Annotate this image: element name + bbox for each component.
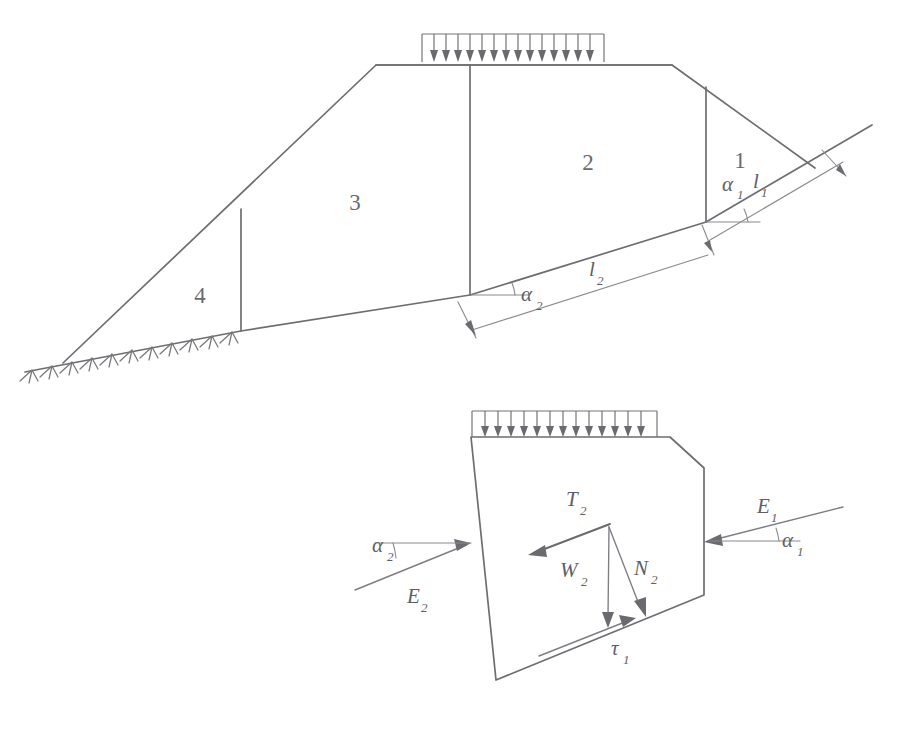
E1-subscript: 1 (771, 510, 778, 525)
alpha1-fbd-arc (776, 528, 779, 541)
label-alpha-1-upper: α 1 (722, 172, 744, 202)
fbd-body-outline (471, 437, 704, 680)
E1-symbol: E (756, 494, 770, 518)
load-tick-lines (434, 34, 590, 50)
l1-arrowhead-left (704, 240, 712, 252)
l2-symbol: l (589, 257, 595, 281)
upper-diagram-group: 1 2 3 4 α 1 l 1 α 2 l 2 (20, 34, 872, 383)
tau1-symbol: τ (611, 636, 620, 660)
label-alpha2-fbd: α 2 (372, 533, 394, 564)
l1-subscript: 1 (761, 185, 768, 200)
embankment-outline (63, 65, 815, 363)
l1-dimension-tick-left (702, 225, 714, 255)
slip-surface-l2 (470, 222, 706, 295)
label-force-E2: E 2 (406, 584, 428, 615)
alpha2-fbd-symbol: α (372, 533, 384, 557)
figure-root: 1 2 3 4 α 1 l 1 α 2 l 2 (0, 0, 908, 730)
ground-hatching (20, 332, 238, 383)
vector-T2-arrowhead (528, 545, 547, 557)
alpha1-fbd-subscript: 1 (797, 544, 804, 559)
alpha2-symbol: α (521, 282, 533, 306)
T2-symbol: T (566, 487, 579, 511)
l2-subscript: 2 (597, 273, 604, 288)
alpha1-subscript: 1 (737, 187, 744, 202)
l1-symbol: l (753, 169, 759, 193)
label-alpha-2-upper: α 2 (521, 282, 543, 313)
vector-tau1-arrowhead (619, 615, 636, 627)
fbd-load-arrowheads (481, 426, 645, 437)
T2-subscript: 2 (580, 503, 587, 518)
fbd-load-tick-lines (485, 411, 641, 426)
tau1-subscript: 1 (623, 652, 630, 667)
W2-symbol: W (560, 558, 580, 582)
diagram-canvas: 1 2 3 4 α 1 l 1 α 2 l 2 (0, 0, 908, 730)
label-alpha1-fbd: α 1 (782, 528, 804, 559)
E2-subscript: 2 (421, 600, 428, 615)
alpha2-subscript: 2 (536, 298, 543, 313)
label-force-E1: E 1 (756, 494, 778, 525)
surcharge-load-lower (472, 411, 657, 437)
N2-symbol: N (633, 556, 649, 580)
l2-arrowhead-left (465, 320, 476, 336)
wedge-label-2: 2 (582, 150, 594, 175)
W2-subscript: 2 (581, 574, 588, 589)
wedge-label-3: 3 (349, 190, 361, 215)
wedge-label-4: 4 (194, 283, 206, 308)
alpha2-fbd-subscript: 2 (387, 549, 394, 564)
vector-E1-arrowhead (704, 534, 723, 546)
E2-symbol: E (406, 584, 420, 608)
alpha2-arc (512, 283, 515, 295)
alpha1-symbol: α (722, 172, 734, 196)
label-force-T2: T 2 (566, 487, 587, 518)
vector-W2-arrowhead (602, 612, 614, 628)
N2-subscript: 2 (651, 572, 658, 587)
wedge-label-1: 1 (734, 148, 746, 173)
label-force-N2: N 2 (633, 556, 658, 587)
surcharge-load-upper (422, 34, 604, 62)
vector-N2-arrowhead (634, 597, 646, 617)
label-l-1-upper: l 1 (753, 169, 768, 200)
label-l-2-upper: l 2 (589, 257, 604, 288)
load-arrowheads (430, 50, 594, 62)
label-force-W2: W 2 (560, 558, 588, 589)
lower-diagram-group: T 2 W 2 N 2 E 1 E 2 τ 1 (355, 411, 843, 680)
vector-W2-line (608, 527, 609, 618)
alpha1-fbd-symbol: α (782, 528, 794, 552)
label-force-tau1: τ 1 (611, 636, 630, 667)
